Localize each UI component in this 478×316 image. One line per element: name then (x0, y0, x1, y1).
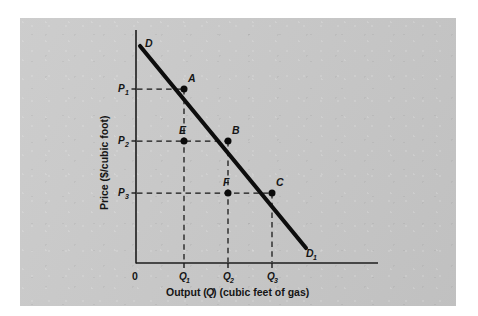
y-tick-label-p1: P (118, 83, 125, 94)
y-axis-title: Price ($/cubic foot) (98, 115, 110, 210)
label-curve-d1-subscript: 1 (313, 254, 317, 261)
label-point-a: A (187, 72, 196, 84)
data-point-b (225, 138, 232, 145)
label-point-e: E (179, 124, 187, 136)
x-tick-label-q1-subscript: 1 (186, 277, 190, 284)
x-axis-title-tail: ) (cubic feet of gas) (213, 286, 309, 298)
x-axis-title: Output ( Q ) (cubic feet of gas) (166, 286, 309, 298)
y-tick-label-p2-subscript: 2 (124, 141, 129, 148)
y-tick-label-p3-subscript: 3 (125, 193, 129, 200)
label-point-c: C (276, 176, 284, 188)
label-point-f: F (223, 176, 230, 188)
data-point-c (269, 190, 276, 197)
data-point-f (225, 190, 232, 197)
x-tick-label-origin: 0 (132, 270, 138, 282)
y-tick-label-p3: P (118, 187, 125, 198)
y-tick-label-p1-subscript: 1 (125, 89, 129, 96)
x-axis-title-main: Output ( (166, 286, 207, 298)
demand-curve-chart: D D 1 A E B F C P 1 P 2 P 3 0 Q 1 Q 2 Q … (0, 0, 478, 316)
x-tick-label-q2-subscript: 2 (229, 277, 234, 284)
data-point-a (181, 86, 188, 93)
demand-curve-line (140, 46, 306, 248)
y-tick-label-p2: P (118, 135, 125, 146)
label-curve-d: D (145, 37, 153, 49)
data-point-e (181, 138, 188, 145)
label-point-b: B (232, 124, 240, 136)
x-tick-label-q3-subscript: 3 (274, 277, 278, 284)
